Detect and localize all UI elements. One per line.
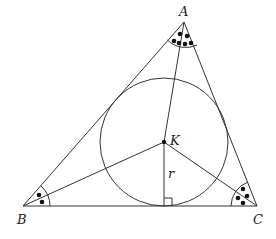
angle-dot — [40, 200, 45, 205]
angle-dot — [172, 39, 177, 44]
center-k-point — [162, 140, 166, 144]
angle-dot — [177, 41, 182, 46]
angle-dot — [183, 42, 188, 47]
label-b: B — [16, 212, 27, 227]
angle-dot — [37, 193, 42, 198]
label-k: K — [169, 133, 181, 148]
angle-dot — [245, 194, 250, 199]
angle-dot — [241, 187, 246, 192]
incircle-diagram: A B C K r — [0, 0, 276, 239]
label-c: C — [253, 212, 263, 227]
angle-dot — [178, 32, 183, 37]
bisector-c — [164, 142, 257, 206]
label-r: r — [168, 166, 175, 181]
right-angle-marker — [164, 198, 172, 206]
angle-dot — [185, 34, 190, 39]
angle-dot — [236, 196, 241, 201]
label-a: A — [178, 4, 188, 19]
angle-dot — [241, 201, 246, 206]
bisector-b — [23, 142, 164, 206]
angle-dot — [189, 41, 194, 46]
